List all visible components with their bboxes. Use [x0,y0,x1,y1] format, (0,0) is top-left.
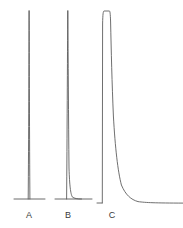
peak-trace-b [67,11,82,200]
peak-trace-c [102,11,183,203]
peak-tailing-figure: A B C [0,0,183,228]
peak-label-b: B [60,210,76,221]
peak-group-c [97,11,183,203]
peak-label-a: A [21,210,37,221]
chromatogram-plot [0,0,183,228]
peak-group-b [55,11,92,200]
peak-trace-a [28,11,30,200]
peak-label-c: C [104,210,120,221]
peak-group-a [14,11,45,200]
